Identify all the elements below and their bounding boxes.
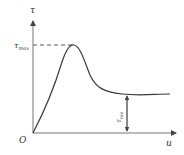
- y-axis-label: τ: [30, 5, 36, 15]
- x-axis-label: u: [166, 138, 172, 148]
- tau-res-label: τres: [115, 111, 124, 123]
- stress-curve: [33, 45, 170, 133]
- origin-label: O: [19, 135, 27, 145]
- stress-displacement-diagram: τ u O τmax τres: [0, 0, 184, 155]
- tau-max-label: τmax: [14, 41, 29, 51]
